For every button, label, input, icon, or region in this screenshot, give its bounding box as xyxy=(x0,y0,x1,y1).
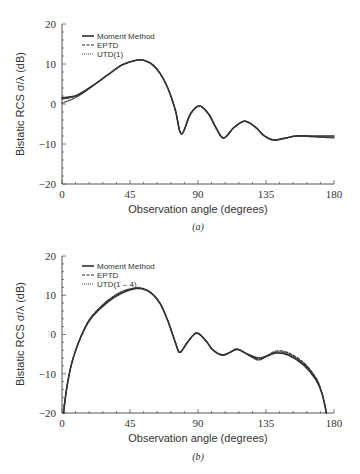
y-tick-label: −20 xyxy=(39,178,57,190)
y-tick-label: 10 xyxy=(45,58,57,70)
x-tick-label: 135 xyxy=(258,188,275,200)
x-tick-label: 180 xyxy=(326,188,343,200)
chart-panel-b: 20 10 0 −10 −20 0 45 90 135 180 Observat… xyxy=(14,250,343,463)
panel-caption: (a) xyxy=(192,221,204,233)
series-line-dashed xyxy=(62,60,334,140)
y-axis-title: Bistatic RCS σ/λ (dB) xyxy=(14,282,26,386)
y-tick-label: 0 xyxy=(51,98,57,110)
panel-caption: (b) xyxy=(192,451,204,463)
y-tick-label: 10 xyxy=(45,289,57,301)
series-line-solid xyxy=(64,288,327,413)
legend-b: Moment Method EPTD UTD(1 – 4) xyxy=(82,262,155,289)
curves-b xyxy=(64,288,327,413)
y-tick-label: 20 xyxy=(45,250,57,262)
x-tick-label: 90 xyxy=(193,188,205,200)
x-tick-label: 45 xyxy=(125,188,137,200)
x-tick-label: 180 xyxy=(326,417,343,429)
legend-label: Moment Method xyxy=(97,262,155,271)
y-tick-label: 0 xyxy=(51,328,57,340)
legend-label: EPTD xyxy=(97,271,119,280)
chart-panel-a: 20 10 0 −10 −20 0 45 90 135 180 Observat… xyxy=(14,18,343,233)
series-line-solid xyxy=(62,60,334,140)
x-tick-label: 0 xyxy=(59,417,65,429)
curves-a xyxy=(62,60,334,140)
y-tick-label: −10 xyxy=(39,138,57,150)
figure: 20 10 0 −10 −20 0 45 90 135 180 Observat… xyxy=(0,0,360,474)
x-tick-label: 0 xyxy=(59,188,65,200)
x-tick-label: 135 xyxy=(258,417,275,429)
x-axis-title: Observation angle (degrees) xyxy=(128,203,267,215)
y-tick-label: 20 xyxy=(45,18,57,30)
x-axis-title: Observation angle (degrees) xyxy=(128,432,267,444)
legend-label: UTD(1 – 4) xyxy=(97,280,137,289)
x-tick-label: 45 xyxy=(125,417,137,429)
x-tick-label: 90 xyxy=(193,417,205,429)
y-axis-title: Bistatic RCS σ/λ (dB) xyxy=(14,52,26,156)
legend-label: UTD(1) xyxy=(97,50,124,59)
y-tick-label: −10 xyxy=(39,368,57,380)
legend-label: Moment Method xyxy=(97,32,155,41)
legend-a: Moment Method EPTD UTD(1) xyxy=(82,32,155,59)
legend-label: EPTD xyxy=(97,41,119,50)
series-line-dotted xyxy=(62,60,334,140)
y-tick-label: −20 xyxy=(39,407,57,419)
